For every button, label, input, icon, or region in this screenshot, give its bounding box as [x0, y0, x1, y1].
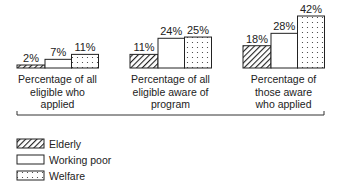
- legend-label: Working poor: [49, 154, 112, 166]
- legend-item-elderly: Elderly: [17, 138, 82, 150]
- bar-value-label: 25%: [187, 24, 209, 36]
- bar-elderly: [243, 46, 271, 68]
- bar-welfare: [298, 16, 325, 68]
- legend-label: Elderly: [49, 138, 82, 150]
- bar-chart: 2%7%11%11%24%25%18%28%42% Percentage of …: [0, 0, 349, 182]
- bar-welfare: [72, 54, 99, 68]
- bar-welfare: [185, 37, 212, 68]
- bar-value-label: 11%: [133, 41, 154, 53]
- bar-group: 11%24%25%: [130, 24, 212, 68]
- bar-elderly: [17, 65, 45, 68]
- bar-value-label: 2%: [23, 52, 39, 64]
- category-captions: Percentage of alleligible whoappliedPerc…: [18, 73, 316, 110]
- bar-value-label: 28%: [273, 20, 295, 32]
- bar-working-poor: [271, 33, 298, 68]
- bar-value-label: 7%: [50, 46, 66, 58]
- legend-item-working-poor: Working poor: [17, 154, 112, 166]
- bar-value-label: 11%: [74, 41, 95, 53]
- legend: ElderlyWorking poorWelfare: [17, 138, 112, 182]
- bar-value-label: 24%: [160, 25, 182, 37]
- legend-label: Welfare: [49, 170, 85, 182]
- legend-swatch: [17, 139, 44, 148]
- bar-working-poor: [158, 38, 185, 68]
- category-label: Percentage of alleligible aware ofprogra…: [131, 73, 210, 110]
- bar-value-label: 18%: [246, 33, 268, 45]
- bar-group: 18%28%42%: [243, 3, 325, 68]
- legend-swatch: [17, 155, 44, 164]
- bar-working-poor: [45, 59, 72, 68]
- bar-groups: 2%7%11%11%24%25%18%28%42%: [17, 3, 325, 68]
- bar-value-label: 42%: [300, 3, 322, 15]
- legend-swatch: [17, 171, 44, 180]
- legend-item-welfare: Welfare: [17, 170, 85, 182]
- bar-group: 2%7%11%: [17, 41, 99, 68]
- group-bracket: [17, 111, 324, 115]
- category-label: Percentage of alleligible whoapplied: [18, 73, 97, 110]
- category-label: Percentage ofthose awarewho applied: [251, 73, 316, 110]
- bar-elderly: [130, 54, 158, 68]
